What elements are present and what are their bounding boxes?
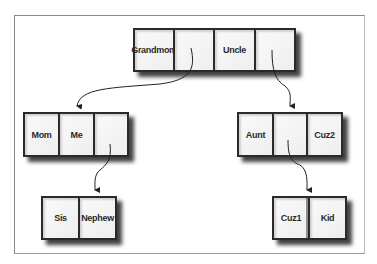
links-layer (0, 0, 377, 264)
edge-grandmom-to-mom (77, 48, 193, 106)
edge-mom-to-sis (95, 144, 110, 190)
edge-grandmom-to-aunt (272, 50, 290, 106)
edge-aunt-to-cuz1 (288, 140, 307, 190)
